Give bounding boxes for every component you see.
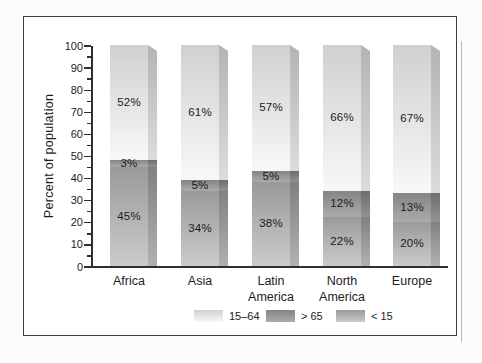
segment-value-label: 57% (259, 102, 283, 114)
segment-value-label: 38% (259, 218, 283, 230)
segment-value-label: 66% (330, 112, 354, 124)
x-axis-label-europe: Europe (380, 274, 444, 290)
bar-north-america: 22%12%66% (323, 45, 370, 266)
side-segment-s1564-latin-america (290, 45, 299, 171)
y-tick (84, 222, 91, 223)
segment-s1564-asia: 61% (181, 45, 219, 180)
side-segment-lt15-asia (219, 191, 228, 266)
y-minor-tick (87, 255, 91, 256)
y-tick (84, 200, 91, 201)
y-tick-label: 30 (55, 195, 83, 206)
y-tick-label: 0 (55, 262, 83, 273)
side-segment-lt15-north-america (361, 217, 370, 266)
segment-lt15-asia: 34% (181, 191, 219, 266)
side-segment-lt15-latin-america (290, 182, 299, 266)
y-tick (84, 67, 91, 68)
figure-frame: Percent of population 010203040506070809… (23, 16, 457, 336)
segment-value-label: 22% (330, 236, 354, 248)
legend-label-s1564: 15–64 (229, 311, 260, 322)
y-tick-label: 80 (55, 85, 83, 96)
segment-value-label: 67% (400, 113, 424, 125)
y-tick-label: 10 (55, 239, 83, 250)
segment-s1564-africa: 52% (110, 45, 148, 160)
side-segment-gt65-africa (148, 160, 157, 167)
y-tick-label: 90 (55, 63, 83, 74)
y-minor-tick (87, 233, 91, 234)
side-segment-gt65-latin-america (290, 171, 299, 182)
bar-side (431, 45, 440, 266)
bar-side (361, 45, 370, 266)
legend-item-s1564: 15–64 (194, 310, 260, 322)
y-minor-tick (87, 211, 91, 212)
y-tick (84, 178, 91, 179)
segment-value-label: 13% (400, 202, 424, 214)
side-segment-s1564-north-america (361, 45, 370, 191)
legend-swatch-s1564 (194, 310, 223, 322)
bar-europe: 20%13%67% (393, 45, 440, 266)
y-tick (84, 266, 91, 267)
x-axis-label-africa: Africa (97, 274, 161, 290)
bar-face: 38%5%57% (252, 45, 290, 266)
segment-value-label: 34% (188, 223, 212, 235)
bar-face: 45%3%52% (110, 45, 148, 266)
segment-value-label: 61% (188, 107, 212, 119)
y-tick-label: 50 (55, 151, 83, 162)
segment-value-label: 5% (262, 171, 279, 183)
segment-value-label: 3% (120, 158, 137, 170)
bar-side (290, 45, 299, 266)
segment-s1564-europe: 67% (393, 45, 431, 193)
bar-asia: 34%5%61% (181, 45, 228, 266)
x-axis-label-north-america: North America (310, 274, 374, 305)
y-minor-tick (87, 56, 91, 57)
y-tick (84, 156, 91, 157)
y-tick-label: 60 (55, 129, 83, 140)
side-segment-lt15-africa (148, 167, 157, 266)
bar-side (148, 45, 157, 266)
legend-label-lt15: < 15 (371, 311, 393, 322)
side-segment-gt65-europe (431, 193, 440, 222)
y-tick (84, 134, 91, 135)
y-minor-tick (87, 78, 91, 79)
y-tick-label: 70 (55, 107, 83, 118)
y-tick-label: 40 (55, 173, 83, 184)
legend-item-gt65: > 65 (266, 310, 323, 322)
y-tick-label: 20 (55, 217, 83, 228)
y-minor-tick (87, 101, 91, 102)
plot-area: 010203040506070809010045%3%52%Africa34%5… (91, 46, 447, 267)
segment-lt15-africa: 45% (110, 167, 148, 266)
segment-gt65-latin-america: 5% (252, 171, 290, 182)
segment-lt15-europe: 20% (393, 222, 431, 266)
y-tick-label: 100 (55, 41, 83, 52)
side-segment-s1564-europe (431, 45, 440, 193)
page: Percent of population 010203040506070809… (0, 0, 482, 363)
segment-value-label: 45% (117, 211, 141, 223)
side-segment-lt15-europe (431, 222, 440, 266)
bar-face: 22%12%66% (323, 45, 361, 266)
y-minor-tick (87, 145, 91, 146)
bar-face: 34%5%61% (181, 45, 219, 266)
y-tick (84, 90, 91, 91)
segment-value-label: 20% (400, 238, 424, 250)
y-tick (84, 244, 91, 245)
y-minor-tick (87, 167, 91, 168)
side-segment-gt65-asia (219, 180, 228, 191)
segment-gt65-europe: 13% (393, 193, 431, 222)
segment-s1564-latin-america: 57% (252, 45, 290, 171)
segment-value-label: 5% (191, 180, 208, 192)
legend-swatch-gt65 (266, 310, 295, 322)
segment-gt65-asia: 5% (181, 180, 219, 191)
bar-africa: 45%3%52% (110, 45, 157, 266)
side-segment-s1564-africa (148, 45, 157, 160)
legend-swatch-lt15 (336, 310, 365, 322)
legend-label-gt65: > 65 (301, 311, 323, 322)
segment-lt15-north-america: 22% (323, 217, 361, 266)
y-tick (84, 45, 91, 46)
side-segment-s1564-asia (219, 45, 228, 180)
segment-lt15-latin-america: 38% (252, 182, 290, 266)
y-axis-title: Percent of population (42, 94, 56, 218)
y-minor-tick (87, 123, 91, 124)
bar-face: 20%13%67% (393, 45, 431, 266)
side-segment-gt65-north-america (361, 191, 370, 218)
segment-s1564-north-america: 66% (323, 45, 361, 191)
legend: 15–64> 65< 15 (24, 310, 456, 326)
